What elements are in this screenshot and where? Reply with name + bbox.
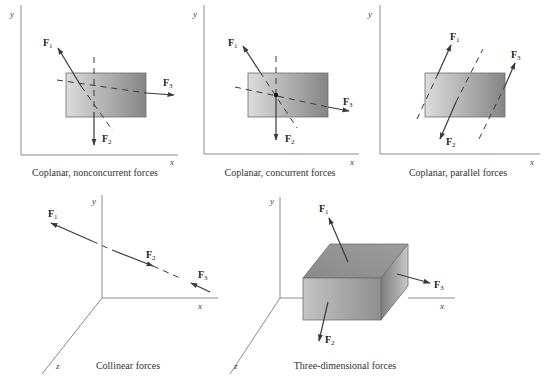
force-label-f1: F1: [43, 37, 53, 50]
force-label-f3: F3: [343, 96, 353, 109]
force-arrow-f1: [437, 45, 451, 76]
x-axis-label: x: [169, 157, 174, 167]
force-systems-diagram: y x F1 F2 F3 Coplanar, nonconcurrent for…: [0, 0, 547, 378]
y-axis-label: y: [9, 9, 14, 19]
force-label-f2: F2: [446, 136, 456, 149]
force-arrow-f1: [51, 223, 92, 241]
force-arrow-f3: [328, 107, 349, 111]
force-arrow-f3: [191, 283, 210, 292]
force-label-f2: F2: [285, 133, 295, 146]
force-label-f1: F1: [228, 37, 238, 50]
x-axis-label: x: [197, 301, 202, 311]
z-axis-label: z: [55, 361, 60, 371]
x-axis-label: x: [529, 157, 534, 167]
box-front-face: [303, 278, 381, 320]
y-axis-label: y: [269, 196, 274, 206]
force-label-f2: F2: [325, 334, 335, 347]
line-of-action-segment: [153, 266, 180, 278]
force-arrow-f3: [505, 63, 515, 86]
y-axis-label: y: [192, 9, 197, 19]
rigid-body: [425, 73, 505, 117]
caption: Coplanar, parallel forces: [409, 167, 507, 178]
panel-coplanar-nonconcurrent: y x F1 F2 F3 Coplanar, nonconcurrent for…: [9, 5, 178, 178]
y-axis-label: y: [367, 9, 372, 19]
rigid-body: [66, 73, 146, 117]
force-label-f1: F1: [319, 203, 329, 216]
panel-coplanar-concurrent: y x F1 F2 F3 Coplanar, concurrent forces: [192, 5, 359, 178]
force-label-f2: F2: [102, 133, 112, 146]
panel-coplanar-parallel: y x F1 F2 F3 Coplanar, parallel forces: [367, 5, 540, 178]
rigid-body: [248, 73, 328, 117]
force-label-f2: F2: [146, 249, 156, 262]
caption: Coplanar, concurrent forces: [225, 167, 336, 178]
force-label-f1: F1: [48, 208, 58, 221]
force-label-f3: F3: [434, 279, 444, 292]
force-label-f3: F3: [198, 269, 208, 282]
x-axis-label: x: [439, 301, 444, 311]
force-label-f3: F3: [163, 77, 173, 90]
z-axis-label: z: [233, 361, 238, 371]
caption: Collinear forces: [96, 360, 160, 371]
force-label-f1: F1: [450, 31, 460, 44]
force-arrow-f1: [243, 46, 260, 72]
z-axis: [42, 298, 102, 374]
concurrency-point: [274, 93, 278, 97]
force-label-f3: F3: [511, 49, 521, 62]
panel-three-dimensional: y x z F1 F2 F3 Three-dimensional forces: [230, 196, 455, 374]
x-axis-label: x: [349, 157, 354, 167]
force-arrow-f3: [146, 93, 174, 95]
caption: Three-dimensional forces: [294, 360, 397, 371]
y-axis-label: y: [91, 196, 96, 206]
panel-collinear: y x z F1 F2 F3 Collinear forces: [42, 195, 218, 374]
caption: Coplanar, nonconcurrent forces: [32, 167, 158, 178]
